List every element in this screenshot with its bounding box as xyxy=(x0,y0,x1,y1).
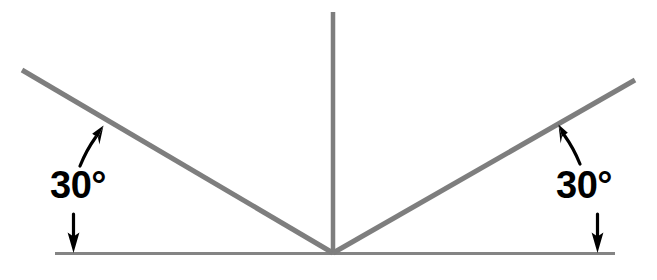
left-lower-arrow xyxy=(68,214,80,253)
angle-diagram-figure: 30° 30° xyxy=(0,0,657,280)
angle-label-left: 30° xyxy=(50,166,106,204)
left-upper-arrow xyxy=(80,126,104,167)
right-lower-arrow xyxy=(592,214,604,253)
diagram-canvas xyxy=(0,0,657,280)
angle-label-right: 30° xyxy=(556,166,612,204)
left-ray xyxy=(22,70,333,253)
right-upper-arrow xyxy=(559,125,581,165)
